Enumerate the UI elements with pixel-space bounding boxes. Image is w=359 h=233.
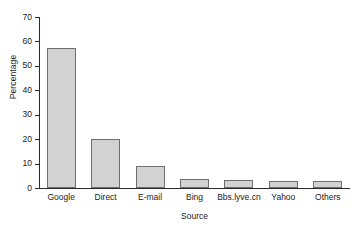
bar <box>224 180 253 188</box>
y-axis-tick: 0 <box>35 188 39 189</box>
x-axis-tick-label: Others <box>315 192 341 202</box>
bar <box>91 139 120 188</box>
x-axis-tick-label: Bing <box>186 192 203 202</box>
y-axis-tick-label: 60 <box>23 36 32 46</box>
x-axis-line <box>39 188 350 189</box>
bars-group <box>39 17 350 188</box>
x-axis-tick-label: E-mail <box>138 192 162 202</box>
bar <box>313 181 342 188</box>
x-axis-title: Source <box>39 211 350 221</box>
y-axis-tick-label: 70 <box>23 12 32 22</box>
y-axis-tick-label: 30 <box>23 109 32 119</box>
x-axis-tick-label: Bbs.lyve.cn <box>217 192 260 202</box>
y-axis-tick-label: 50 <box>23 60 32 70</box>
bar <box>180 179 209 188</box>
y-axis-tick-label: 0 <box>27 183 32 193</box>
x-axis-tick-label: Direct <box>95 192 117 202</box>
bar-chart: Percentage 010203040506070 GoogleDirectE… <box>0 0 359 233</box>
bar <box>269 181 298 188</box>
x-axis-tick-label: Yahoo <box>271 192 295 202</box>
y-axis-title: Percentage <box>8 27 18 127</box>
bar <box>136 166 165 188</box>
x-axis-tick-label: Google <box>47 192 74 202</box>
y-axis-tick-label: 20 <box>23 134 32 144</box>
bar <box>47 48 76 188</box>
plot-area: 010203040506070 GoogleDirectE-mailBingBb… <box>39 17 350 188</box>
y-axis-tick-label: 40 <box>23 85 32 95</box>
y-axis-tick-label: 10 <box>23 158 32 168</box>
